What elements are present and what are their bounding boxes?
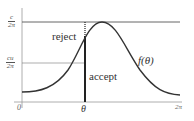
rejection-sampling-diagram: [0, 0, 194, 121]
origin-label: 0: [17, 104, 21, 112]
reject-label: reject: [52, 31, 76, 42]
f-theta-curve: [22, 22, 180, 95]
mid-level-label: cu 2π: [6, 55, 15, 70]
theta-tick-label: θ: [81, 104, 86, 114]
top-level-label: c 2π: [8, 14, 15, 29]
accept-label: accept: [89, 71, 117, 82]
x-end-label: 2π: [175, 104, 182, 111]
curve-label: f(θ): [138, 55, 154, 66]
